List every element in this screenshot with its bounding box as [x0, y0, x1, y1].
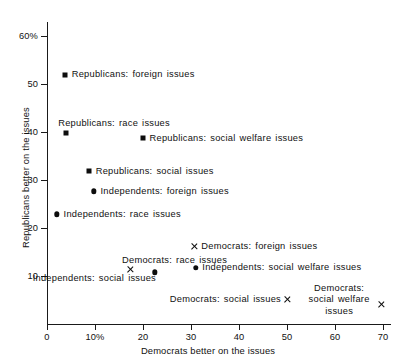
- x-tick-label-40: 40: [234, 332, 245, 342]
- x-tick-label-30: 30: [186, 332, 197, 342]
- x-tick-label-10: 10%: [86, 332, 105, 342]
- marker-square-icon: [141, 136, 146, 141]
- x-tick-label-60: 60: [330, 332, 341, 342]
- marker-cross-icon: [191, 243, 198, 250]
- data-point-democrats-social-welfare-issues: [378, 301, 385, 308]
- x-tick-50: [287, 324, 288, 330]
- marker-cross-icon: [378, 301, 385, 308]
- marker-square-icon: [64, 131, 69, 136]
- x-tick-label-20: 20: [138, 332, 149, 342]
- point-label-republicans-social-welfare-issues: Republicans: social welfare issues: [150, 133, 304, 143]
- x-tick-0: [47, 324, 48, 330]
- marker-square-icon: [87, 169, 92, 174]
- y-tick-20: [41, 228, 47, 229]
- y-axis-title: Republicans better on the issues: [20, 78, 31, 278]
- point-label-republicans-race-issues: Republicans: race issues: [58, 118, 170, 128]
- data-point-independents-foreign-issues: [91, 188, 96, 193]
- y-tick-60: [41, 36, 47, 37]
- marker-square-icon: [63, 72, 68, 77]
- point-label-democrats-social-welfare-issues: Democrats: social welfare issues: [300, 283, 378, 317]
- data-point-republicans-social-welfare-issues: [141, 136, 146, 141]
- x-tick-30: [191, 324, 192, 330]
- data-point-republicans-foreign-issues: [63, 72, 68, 77]
- x-axis-title: Democrats better on the issues: [0, 345, 416, 356]
- point-label-republicans-social-issues: Republicans: social issues: [96, 166, 214, 176]
- data-point-democrats-race-issues: [127, 266, 134, 273]
- marker-circle-icon: [193, 265, 198, 270]
- point-label-independents-social-issues: Independents: social issues: [33, 273, 156, 283]
- data-point-republicans-social-issues: [87, 169, 92, 174]
- scatter-plot-figure: 102030405060% 010%203040506070 Republica…: [0, 0, 416, 361]
- point-label-republicans-foreign-issues: Republicans: foreign issues: [72, 69, 195, 79]
- data-point-republicans-race-issues: [64, 131, 69, 136]
- marker-circle-icon: [54, 212, 59, 217]
- x-tick-label-50: 50: [282, 332, 293, 342]
- x-tick-20: [143, 324, 144, 330]
- point-label-democrats-race-issues: Democrats: race issues: [122, 255, 227, 265]
- data-point-independents-social-welfare-issues: [193, 265, 198, 270]
- x-axis-line: [47, 324, 391, 325]
- marker-cross-icon: [127, 266, 134, 273]
- y-tick-30: [41, 180, 47, 181]
- x-tick-label-0: 0: [44, 332, 49, 342]
- x-tick-70: [383, 324, 384, 330]
- y-tick-label-60: 60%: [0, 31, 38, 41]
- y-tick-50: [41, 84, 47, 85]
- x-tick-10: [95, 324, 96, 330]
- point-label-democrats-social-issues: Democrats: social issues: [170, 294, 281, 304]
- data-point-democrats-foreign-issues: [191, 243, 198, 250]
- marker-circle-icon: [91, 188, 96, 193]
- x-tick-60: [335, 324, 336, 330]
- point-label-independents-foreign-issues: Independents: foreign issues: [101, 186, 229, 196]
- point-label-democrats-foreign-issues: Democrats: foreign issues: [201, 241, 317, 251]
- x-tick-40: [239, 324, 240, 330]
- marker-cross-icon: [284, 296, 291, 303]
- point-label-independents-race-issues: Independents: race issues: [64, 209, 181, 219]
- data-point-democrats-social-issues: [284, 296, 291, 303]
- y-tick-40: [41, 132, 47, 133]
- x-tick-label-70: 70: [378, 332, 389, 342]
- data-point-independents-race-issues: [54, 212, 59, 217]
